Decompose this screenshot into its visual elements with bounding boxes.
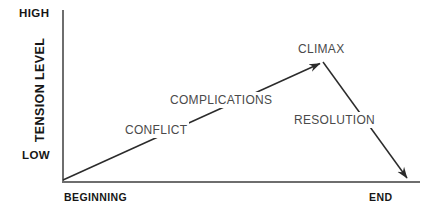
x-axis-end-label: END <box>369 191 392 203</box>
y-axis-title: TENSION LEVEL <box>33 38 47 143</box>
y-axis-low-label: LOW <box>22 149 50 161</box>
x-axis-beginning-label: BEGINNING <box>64 191 127 203</box>
stage-label-resolution: RESOLUTION <box>292 112 377 128</box>
rising-action-line <box>63 64 320 181</box>
y-axis-high-label: HIGH <box>19 7 49 19</box>
stage-label-conflict: CONFLICT <box>123 122 189 138</box>
tension-level-diagram: HIGH LOW TENSION LEVEL BEGINNING END CON… <box>0 0 429 224</box>
stage-label-complications: COMPLICATIONS <box>168 92 274 108</box>
stage-label-climax: CLIMAX <box>296 41 346 57</box>
